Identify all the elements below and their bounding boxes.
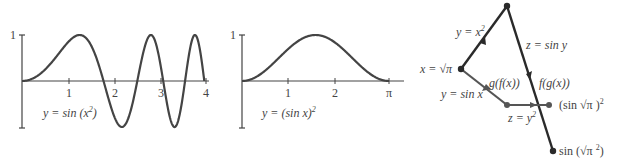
x-tick-label-1: 1 bbox=[66, 86, 72, 100]
node-sin-x bbox=[504, 102, 510, 108]
x-tick-label-3: 3 bbox=[158, 86, 164, 100]
start-label: x = √π bbox=[419, 62, 453, 76]
node-result-upper bbox=[550, 148, 556, 154]
edge-label-z-sin-y: z = sin y bbox=[525, 38, 568, 52]
x-tick-label-2: 2 bbox=[112, 86, 118, 100]
result-lower-label: (sin √π )2 bbox=[559, 97, 604, 112]
node-x-squared bbox=[504, 3, 510, 9]
chart-sin-x-squared: 1 1 2 3 4 y = sin (x2) bbox=[10, 28, 209, 128]
arrow-icon bbox=[530, 102, 537, 108]
composition-diagram: x = √π y = x2 z = sin y y = sin x z = y2… bbox=[419, 3, 604, 158]
composite-label-g-f: g(f(x)) bbox=[489, 76, 520, 90]
edge-label-z-y-squared: z = y2 bbox=[507, 110, 536, 125]
x-tick-label-4: 4 bbox=[203, 86, 209, 100]
chart2-function-label: y = (sin x)2 bbox=[261, 105, 316, 120]
chart1-function-label: y = sin (x2) bbox=[42, 105, 97, 120]
x-tick-label-2: 2 bbox=[332, 86, 338, 100]
edge-label-y-x-squared: y = x2 bbox=[455, 24, 485, 39]
result-upper-label: sin (√π 2) bbox=[559, 143, 604, 158]
y-tick-label-1: 1 bbox=[10, 28, 16, 42]
node-result-lower bbox=[546, 102, 552, 108]
x-tick-label-pi: π bbox=[386, 86, 392, 100]
curve-sin-squared bbox=[242, 35, 389, 81]
y-tick-label-1: 1 bbox=[230, 28, 236, 42]
node-start bbox=[458, 66, 464, 72]
x-tick-label-1: 1 bbox=[285, 86, 291, 100]
edge-label-y-sin-x: y = sin x bbox=[440, 87, 483, 101]
composite-label-f-g: f(g(x)) bbox=[539, 76, 570, 90]
chart-sin-squared: 1 1 2 π y = (sin x)2 bbox=[230, 28, 404, 128]
figure-canvas: 1 1 2 3 4 y = sin (x2) 1 1 2 π y = (sin … bbox=[0, 0, 623, 165]
